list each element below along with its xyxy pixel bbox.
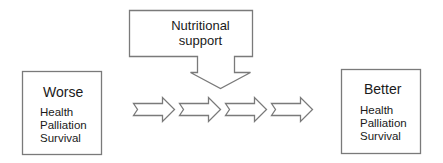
better-item-survival: Survival [360, 130, 407, 143]
nutritional-support-label: Nutritional support [129, 10, 252, 54]
better-item-palliation: Palliation [360, 117, 407, 130]
right-arrow-icon [272, 98, 313, 122]
worse-item-palliation: Palliation [40, 119, 87, 132]
better-items: Health Palliation Survival [360, 104, 407, 143]
right-arrow-icon [226, 98, 267, 122]
worse-title: Worse [43, 84, 83, 100]
callout-line-2: support [149, 33, 252, 48]
right-arrow-icon [134, 98, 175, 122]
better-title: Better [364, 81, 401, 97]
flow-arrows [134, 98, 313, 122]
worse-items: Health Palliation Survival [40, 106, 87, 145]
worse-item-health: Health [40, 106, 87, 119]
right-arrow-icon [180, 98, 221, 122]
better-item-health: Health [360, 104, 407, 117]
callout-line-1: Nutritional [149, 18, 252, 33]
worse-item-survival: Survival [40, 132, 87, 145]
